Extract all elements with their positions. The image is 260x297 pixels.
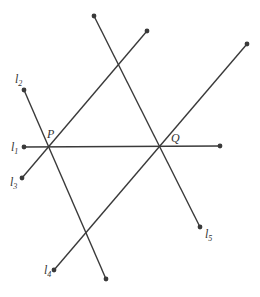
label-l3-subscript: 3 — [12, 182, 17, 191]
point-label-q: Q — [171, 131, 180, 145]
line-l5 — [94, 16, 200, 227]
line-l4 — [54, 44, 247, 270]
label-l4-subscript: 4 — [47, 270, 51, 279]
endpoint-l3-end — [145, 29, 150, 34]
endpoint-l4-start — [52, 268, 57, 273]
endpoint-l2-start — [22, 88, 27, 93]
endpoint-l5-end — [198, 225, 203, 230]
label-l3: l3 — [10, 175, 17, 191]
endpoint-l2-end — [104, 277, 109, 282]
endpoint-l1-end — [218, 144, 223, 149]
label-l1-subscript: 1 — [14, 147, 18, 156]
endpoint-l1-start — [22, 145, 27, 150]
label-l2-subscript: 2 — [18, 79, 22, 88]
geometry-diagram: l1l2l3l4l5PQ — [0, 0, 260, 297]
line-l3 — [22, 31, 147, 178]
label-l4: l4 — [44, 263, 51, 279]
label-l5-subscript: 5 — [208, 234, 212, 243]
point-label-p: P — [46, 127, 55, 141]
endpoint-l5-start — [92, 14, 97, 19]
endpoint-l3-start — [20, 176, 25, 181]
label-l5: l5 — [205, 227, 212, 243]
endpoint-l4-end — [245, 42, 250, 47]
label-l2: l2 — [15, 72, 22, 88]
line-l2 — [24, 90, 106, 279]
label-l1: l1 — [11, 140, 18, 156]
line-l1 — [24, 146, 220, 147]
